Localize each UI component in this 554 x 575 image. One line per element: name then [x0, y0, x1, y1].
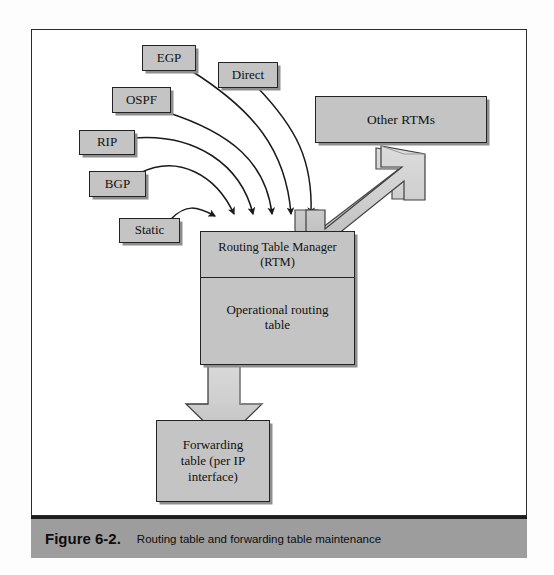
forwarding-line1: Forwarding [183, 437, 244, 452]
figure-caption-bar: Figure 6-2. Routing table and forwarding… [31, 516, 527, 558]
rtm-box[interactable]: Routing Table Manager (RTM) Operational … [200, 231, 355, 365]
source-box-egp-label: EGP [157, 51, 182, 66]
source-box-rip[interactable]: RIP [79, 130, 135, 155]
rtm-body-line2: table [265, 317, 290, 332]
source-box-egp[interactable]: EGP [142, 45, 196, 71]
source-box-bgp-label: BGP [105, 177, 130, 192]
rtm-box-body: Operational routing table [201, 278, 354, 364]
rtm-header-line1: Routing Table Manager [218, 240, 336, 254]
forwarding-line2: table (per IP [181, 453, 245, 468]
peer-box-other-rtms-label: Other RTMs [367, 112, 435, 127]
figure-page: EGP Direct OSPF RIP BGP Static Other RTM… [0, 0, 554, 575]
source-box-direct-label: Direct [232, 68, 264, 83]
forwarding-table-box[interactable]: Forwarding table (per IP interface) [156, 420, 270, 502]
rtm-body-line1: Operational routing [226, 302, 328, 317]
forwarding-line3: interface) [188, 469, 238, 484]
figure-caption-text: Routing table and forwarding table maint… [137, 533, 381, 545]
source-box-ospf-label: OSPF [126, 93, 157, 108]
source-box-rip-label: RIP [97, 135, 117, 150]
source-box-static[interactable]: Static [119, 218, 180, 243]
source-box-bgp[interactable]: BGP [89, 171, 146, 197]
rtm-box-header: Routing Table Manager (RTM) [201, 232, 354, 278]
source-box-static-label: Static [135, 223, 165, 238]
figure-caption-label: Figure 6-2. [45, 530, 121, 547]
source-box-ospf[interactable]: OSPF [112, 87, 171, 113]
source-box-direct[interactable]: Direct [218, 62, 278, 88]
peer-box-other-rtms[interactable]: Other RTMs [315, 96, 487, 143]
rtm-header-line2: (RTM) [260, 255, 295, 269]
